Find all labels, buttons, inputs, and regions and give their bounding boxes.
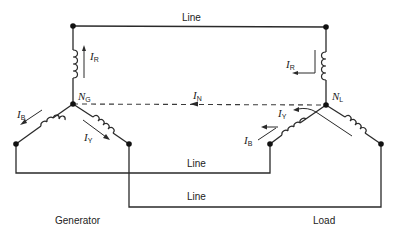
neutral-current-label: IN (192, 89, 202, 102)
generator-blue-phase-coil (16, 104, 73, 144)
gen-ir-label: IR (89, 50, 99, 63)
gen-ir-arrow-icon (82, 45, 86, 78)
middle-line-wire (16, 144, 270, 173)
middle-line-label: Line (187, 158, 206, 169)
load-red-phase-coil (322, 27, 327, 105)
generator-neutral-label: NG (77, 90, 91, 103)
top-line-label: Line (182, 12, 201, 23)
generator-yellow-phase-coil (73, 104, 129, 144)
generator-caption: Generator (55, 215, 101, 226)
gen-iy-label: IY (83, 131, 93, 144)
load-neutral-node (323, 102, 329, 108)
load-red-terminal-node (323, 24, 329, 30)
generator-red-phase-coil (73, 26, 78, 104)
load-caption: Load (313, 215, 335, 226)
load-ib-label: IB (243, 134, 253, 147)
load-blue-terminal-node (267, 141, 273, 147)
top-line-wire (73, 26, 326, 27)
gen-yellow-terminal-node (126, 141, 132, 147)
neutral-wire (73, 104, 326, 105)
load-yellow-terminal-node (378, 141, 384, 147)
three-phase-circuit-diagram: Line IR IR IN NG NL (0, 0, 397, 231)
load-ir-label: IR (285, 58, 295, 71)
neutral-current-arrow-icon (190, 102, 198, 107)
bottom-line-wire (129, 144, 381, 207)
gen-ib-label: IB (16, 108, 26, 121)
generator-neutral-node (70, 101, 76, 107)
bottom-line-label: Line (187, 191, 206, 202)
gen-red-terminal-node (70, 23, 76, 29)
load-neutral-label: NL (331, 90, 343, 103)
load-ib-arrow-icon (258, 125, 278, 141)
gen-blue-terminal-node (13, 141, 19, 147)
load-iy-label: IY (277, 107, 287, 120)
load-ir-arrow-icon (292, 50, 315, 75)
